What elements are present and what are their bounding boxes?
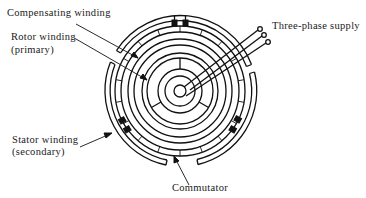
label-three-phase-supply: Three-phase supply (272, 20, 360, 32)
label-stator-winding-secondary: (secondary) (12, 146, 65, 158)
commutator (142, 53, 218, 129)
label-commutator: Commutator (172, 182, 228, 194)
label-rotor-winding-primary: (primary) (11, 44, 54, 56)
label-rotor-winding: Rotor winding (11, 31, 76, 43)
label-stator-winding: Stator winding (12, 134, 78, 146)
rotor-winding-rings (128, 39, 232, 143)
label-compensating-winding: Compensating winding (7, 7, 111, 19)
three-phase-supply-leads (184, 27, 270, 96)
